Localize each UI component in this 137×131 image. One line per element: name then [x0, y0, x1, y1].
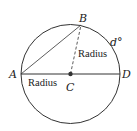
arc-label-d: d° [110, 36, 123, 49]
center-point-C [68, 72, 72, 76]
label-D: D [121, 68, 131, 81]
radius-label-CB: Radius [78, 48, 107, 59]
label-C: C [66, 81, 75, 94]
label-B: B [78, 12, 87, 25]
label-A: A [8, 68, 17, 81]
circle-diagram: A B C D d° Radius Radius [0, 0, 137, 131]
radius-label-AC: Radius [28, 77, 57, 88]
